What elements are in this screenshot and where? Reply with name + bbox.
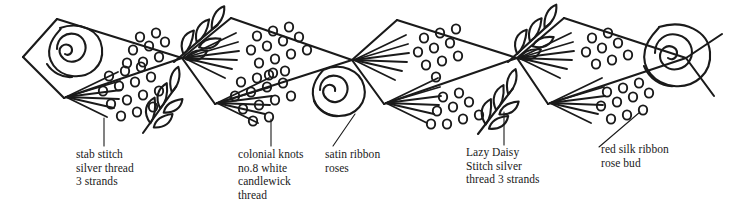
knot-field — [582, 28, 632, 68]
label-stab-stitch: stab stitch silver thread 3 strands — [76, 148, 134, 189]
label-lazy-daisy-stitch: Lazy Daisy Stitch silver thread 3 strand… — [466, 146, 540, 187]
stab-fan — [386, 78, 441, 123]
leaf-sprig — [127, 67, 194, 133]
stab-fan — [519, 33, 574, 78]
ribbon-rose — [644, 25, 710, 87]
label-colonial-knots: colonial knots no.8 white candlewick thr… — [238, 148, 304, 202]
embroidery-diagram: .ln { fill: none; stroke: #1a1a1a; strok… — [0, 0, 736, 215]
stab-fan — [550, 78, 605, 123]
leader-line-satin — [333, 114, 355, 146]
knot-field — [123, 28, 169, 67]
leader-line-redsilk — [599, 112, 640, 147]
knot-field — [427, 88, 483, 128]
knot-field — [247, 22, 311, 79]
ribbon-rose — [47, 26, 102, 77]
label-red-silk-ribbon-rose-bud: red silk ribbon rose bud — [601, 143, 669, 170]
label-satin-ribbon-roses: satin ribbon roses — [325, 148, 380, 175]
ribbon-rose — [313, 67, 365, 116]
leader-lines — [104, 112, 640, 147]
